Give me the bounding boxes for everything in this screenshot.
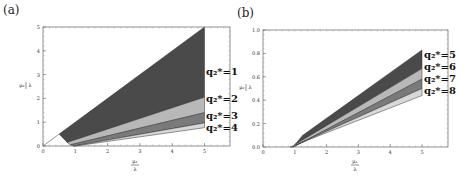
y-tick-label: 5 [37,24,40,30]
x-tick-label: 5 [203,148,206,154]
y-tick-label: 4 [37,48,40,54]
annotation-q2-6: q₂*=6 [424,61,456,72]
x-tick-label: 3 [138,148,141,154]
x-tick-label: 0 [41,148,44,154]
svg-text:λ: λ [353,166,357,172]
x-tick-label: 1 [293,149,296,155]
plot-a-ylabel: μ₂ λ [19,82,32,89]
plot-b-annotations: q₂*=5 q₂*=6 q₂*=7 q₂*=8 [424,49,456,96]
y-tick-label: 0.0 [252,144,260,150]
annotation-q2-7: q₂*=7 [424,73,456,84]
annotation-q2-3: q₂*=3 [206,110,238,121]
svg-text:λ: λ [133,166,137,172]
plot-b: 0123450.00.20.40.60.81.0 q₂*=5 q₂*=6 q₂*… [239,27,456,172]
y-tick-label: 0.4 [252,97,260,103]
svg-text:λ: λ [28,82,32,88]
figure-canvas: 012345012345 q₂*=1 q₂*=2 q₂*=3 q₂*=4 μ₁ … [0,0,467,184]
x-tick-label: 1 [74,148,77,154]
x-tick-label: 4 [171,148,174,154]
y-tick-label: 1 [37,119,40,125]
annotation-q2-8: q₂*=8 [424,85,456,96]
plot-a-annotations: q₂*=1 q₂*=2 q₂*=3 q₂*=4 [206,66,238,133]
y-tick-label: 0.6 [252,74,260,80]
annotation-q2-2: q₂*=2 [206,93,238,104]
plot-a: 012345012345 q₂*=1 q₂*=2 q₂*=3 q₂*=4 μ₁ … [19,24,238,172]
plot-a-xlabel: μ₁ λ [131,158,139,172]
svg-text:μ₂: μ₂ [239,84,244,91]
x-tick-label: 3 [357,149,360,155]
annotation-q2-4: q₂*=4 [206,122,238,133]
svg-text:λ: λ [248,84,252,90]
x-tick-label: 2 [325,149,328,155]
x-tick-label: 0 [261,149,264,155]
plot-b-ylabel: μ₂ λ [239,84,252,91]
svg-text:μ₂: μ₂ [19,82,24,89]
x-tick-label: 4 [389,149,392,155]
x-tick-label: 5 [420,149,423,155]
x-tick-label: 2 [106,148,109,154]
y-tick-label: 3 [37,72,40,78]
y-tick-label: 1.0 [252,27,260,33]
annotation-q2-5: q₂*=5 [424,49,456,60]
y-tick-label: 0.8 [252,50,260,56]
y-tick-label: 2 [37,95,40,101]
y-tick-label: 0 [37,143,40,149]
y-tick-label: 0.2 [252,121,260,127]
svg-text:μ₁: μ₁ [132,158,137,165]
svg-text:μ₁: μ₁ [352,158,357,165]
plot-b-xlabel: μ₁ λ [351,158,359,172]
annotation-q2-1: q₂*=1 [206,66,238,77]
